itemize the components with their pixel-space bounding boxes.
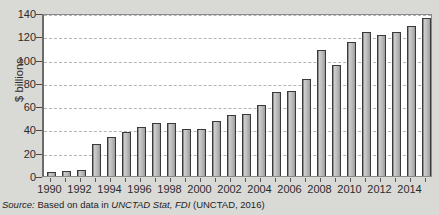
bar-slot: [404, 15, 419, 176]
x-axis-tick-mark: [80, 178, 81, 182]
bar: [302, 79, 311, 176]
bar: [167, 123, 176, 176]
bar-slot: [74, 15, 89, 176]
x-axis-tick-label: 2004: [247, 183, 271, 195]
y-axis-tick-label: 60: [2, 101, 36, 113]
y-axis-tick-label: 120: [2, 31, 36, 43]
bar-slot: [239, 15, 254, 176]
x-axis-tick-label: 2014: [397, 183, 421, 195]
bar-slot: [164, 15, 179, 176]
bar-slot: [134, 15, 149, 176]
bar-slot: [374, 15, 389, 176]
y-axis-tick-mark: [36, 61, 42, 62]
x-axis-tick-mark: [65, 178, 66, 182]
y-axis-tick-mark: [36, 154, 42, 155]
bar: [122, 132, 131, 176]
bar-series: [44, 15, 431, 176]
bar-slot: [104, 15, 119, 176]
bar: [47, 172, 56, 176]
x-axis-tick-mark: [155, 178, 156, 182]
y-axis-tick-label: 40: [2, 124, 36, 136]
y-axis-tick-mark: [36, 107, 42, 108]
x-axis-tick-mark: [275, 178, 276, 182]
x-axis-tick-mark: [365, 178, 366, 182]
x-axis-tick-label: 2000: [187, 183, 211, 195]
bar: [362, 32, 371, 176]
x-axis-tick-mark: [200, 178, 201, 182]
source-prefix: Source:: [2, 199, 35, 210]
bar: [152, 123, 161, 176]
bar: [137, 127, 146, 176]
x-axis-tick-label: 2012: [367, 183, 391, 195]
x-axis-tick-mark: [395, 178, 396, 182]
x-axis-tick-label: 1994: [97, 183, 121, 195]
bar-slot: [299, 15, 314, 176]
x-axis-tick-mark: [425, 178, 426, 182]
bar: [332, 65, 341, 176]
bar-slot: [359, 15, 374, 176]
bar: [422, 18, 431, 176]
y-axis-tick-labels: 020406080100120140: [0, 0, 36, 215]
bar: [62, 171, 71, 176]
bar: [242, 114, 251, 176]
x-axis-tick-mark: [230, 178, 231, 182]
source-citation-title: UNCTAD Stat, FDI: [111, 199, 190, 210]
y-axis-tick-label: 80: [2, 78, 36, 90]
bar-slot: [194, 15, 209, 176]
x-axis-tick-mark: [380, 178, 381, 182]
plot-area: [42, 14, 432, 177]
source-text-after: (UNCTAD, 2016): [190, 199, 264, 210]
bar: [347, 42, 356, 176]
bar: [317, 50, 326, 176]
bar-slot: [149, 15, 164, 176]
y-axis-tick-mark: [36, 177, 42, 178]
y-axis-tick-label: 140: [2, 8, 36, 20]
bar-slot: [224, 15, 239, 176]
bar-slot: [344, 15, 359, 176]
x-axis-tick-label: 1998: [157, 183, 181, 195]
bar-slot: [389, 15, 404, 176]
bar-slot: [314, 15, 329, 176]
bar-slot: [59, 15, 74, 176]
x-axis-tick-mark: [305, 178, 306, 182]
x-axis-tick-mark: [140, 178, 141, 182]
bar-slot: [419, 15, 434, 176]
bar: [392, 32, 401, 176]
x-axis-tick-label: 1990: [37, 183, 61, 195]
x-axis-tick-mark: [245, 178, 246, 182]
y-axis-tick-mark: [36, 84, 42, 85]
bar-slot: [284, 15, 299, 176]
x-axis-tick-mark: [260, 178, 261, 182]
x-axis-tick-mark: [335, 178, 336, 182]
bar-slot: [44, 15, 59, 176]
x-axis-tick-label: 2008: [307, 183, 331, 195]
bar: [272, 92, 281, 176]
x-axis-tick-mark: [95, 178, 96, 182]
x-axis-tick-mark: [185, 178, 186, 182]
bar: [287, 91, 296, 176]
y-axis-tick-label: 20: [2, 148, 36, 160]
bar: [92, 144, 101, 176]
y-axis-tick-label: 100: [2, 55, 36, 67]
bar-slot: [119, 15, 134, 176]
source-note: Source: Based on data in UNCTAD Stat, FD…: [2, 199, 265, 210]
x-axis-tick-label: 1996: [127, 183, 151, 195]
bar-slot: [89, 15, 104, 176]
bar: [77, 170, 86, 176]
x-axis-tick-label: 2010: [337, 183, 361, 195]
bar-slot: [179, 15, 194, 176]
x-axis-tick-label: 1992: [67, 183, 91, 195]
chart-figure: $ billions 020406080100120140 Source: Ba…: [0, 0, 439, 215]
source-text-before: Based on data in: [35, 199, 112, 210]
x-axis-tick-mark: [350, 178, 351, 182]
bar: [377, 35, 386, 176]
bar-slot: [254, 15, 269, 176]
y-axis-tick-mark: [36, 130, 42, 131]
bar: [212, 121, 221, 176]
bar: [197, 129, 206, 176]
bar: [407, 26, 416, 176]
x-axis-tick-mark: [125, 178, 126, 182]
y-axis-tick-mark: [36, 14, 42, 15]
x-axis-tick-mark: [290, 178, 291, 182]
bar: [182, 129, 191, 176]
